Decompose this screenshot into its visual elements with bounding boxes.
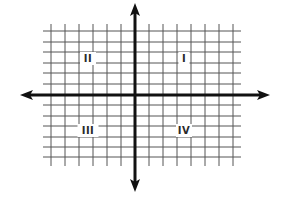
quadrant-label-iii: III: [82, 125, 95, 136]
background: [0, 0, 290, 200]
quadrant-label-ii: II: [84, 53, 92, 64]
coordinate-plane: I II III IV: [0, 0, 290, 200]
quadrant-label-iv: IV: [178, 125, 190, 136]
quadrant-label-i: I: [182, 53, 186, 64]
